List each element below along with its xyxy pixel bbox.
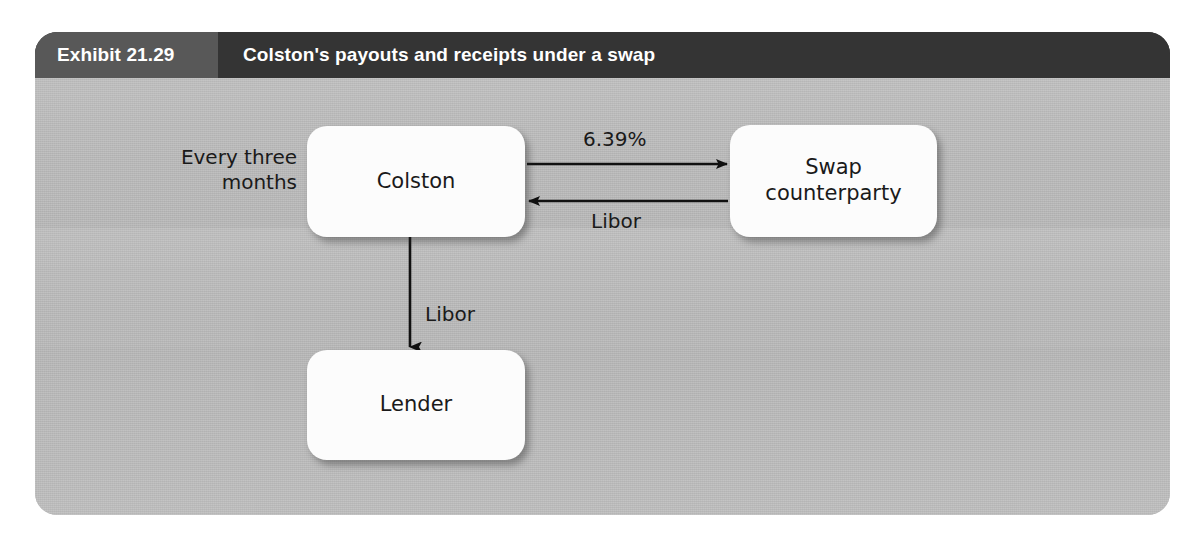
edge-label-lender-payment: Libor	[425, 302, 475, 326]
node-lender-label: Lender	[380, 392, 452, 418]
node-counterparty-label-line2: counterparty	[765, 181, 901, 207]
node-lender[interactable]: Lender	[307, 350, 525, 460]
edge-label-fixed-rate: 6.39%	[583, 127, 647, 151]
node-counterparty-label-line1: Swap	[765, 155, 901, 181]
node-colston-label: Colston	[377, 169, 456, 195]
frequency-note-line2: months	[145, 170, 297, 195]
edge-label-floating-rate: Libor	[591, 209, 641, 233]
diagram-arrows	[35, 32, 1170, 515]
frequency-note-line1: Every three	[145, 145, 297, 170]
swap-flow-diagram: Every three months Colston Swap counterp…	[35, 32, 1170, 515]
frequency-note: Every three months	[145, 145, 297, 195]
node-swap-counterparty[interactable]: Swap counterparty	[730, 125, 937, 237]
exhibit-panel: Exhibit 21.29 Colston's payouts and rece…	[35, 32, 1170, 515]
node-colston[interactable]: Colston	[307, 126, 525, 237]
